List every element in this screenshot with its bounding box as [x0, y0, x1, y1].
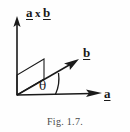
label-cross-product-operator: x [33, 7, 43, 19]
label-vector-b-text: b [83, 45, 90, 60]
vector-diagram [0, 0, 130, 132]
label-vector-a-text: a [104, 86, 111, 101]
label-angle-theta: θ [39, 80, 46, 92]
label-cross-product-a: a [26, 5, 33, 20]
vector-a-shaft [17, 94, 92, 96]
label-vector-b: b [83, 46, 90, 59]
angle-arc [56, 73, 59, 94]
label-cross-product-b: b [43, 5, 51, 20]
label-cross-product: axb [26, 6, 51, 19]
figure-container: axb b a θ Fig. 1.7. [0, 0, 130, 132]
figure-caption: Fig. 1.7. [0, 116, 130, 127]
vector-b-arrowhead [64, 59, 79, 70]
label-vector-a: a [104, 87, 111, 100]
